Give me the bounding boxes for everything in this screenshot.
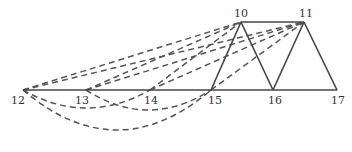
dashed-edge-13-10 — [86, 22, 241, 90]
node-label-10: 10 — [234, 7, 248, 20]
solid-edges — [23, 22, 337, 90]
solid-edge-11-16 — [273, 22, 304, 90]
node-label-17: 17 — [331, 94, 345, 107]
node-label-15: 15 — [208, 94, 222, 107]
node-label-16: 16 — [268, 94, 282, 107]
solid-edge-10-15 — [211, 22, 241, 90]
dashed-arc-12-15 — [23, 90, 211, 130]
node-label-12: 12 — [11, 94, 25, 107]
solid-edge-11-17 — [304, 22, 337, 90]
dashed-edge-14-11 — [150, 22, 304, 90]
dashed-edge-12-10 — [23, 22, 241, 90]
truss-diagram: 1011121314151617 — [0, 0, 352, 152]
dashed-edge-13-11 — [86, 22, 304, 90]
dashed-edges — [23, 22, 304, 90]
node-label-13: 13 — [75, 94, 89, 107]
solid-edge-10-16 — [241, 22, 273, 90]
node-label-14: 14 — [144, 94, 158, 107]
dashed-arcs — [23, 90, 211, 130]
diagram-svg: 1011121314151617 — [0, 0, 352, 152]
node-label-11: 11 — [299, 7, 313, 20]
